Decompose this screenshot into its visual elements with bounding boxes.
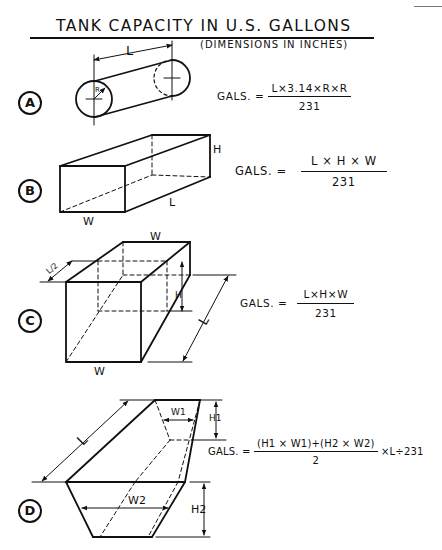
formula-lhs: GALS. = bbox=[208, 446, 251, 457]
tank-a-formula: GALS. = L×3.14×R×R 231 bbox=[217, 82, 351, 112]
tank-d-w1-label: W1 bbox=[171, 407, 186, 417]
tank-a-badge: A bbox=[18, 91, 42, 115]
tank-b-formula: GALS. = L × H × W 231 bbox=[235, 154, 387, 189]
formula-denominator: 231 bbox=[299, 97, 321, 112]
tank-c-badge: C bbox=[18, 309, 42, 333]
formula-numerator: (H1 × W1)+(H2 × W2) bbox=[254, 438, 378, 452]
tank-d-h1-label: H1 bbox=[209, 413, 222, 423]
formula-lhs: GALS. = bbox=[217, 90, 265, 102]
tank-c-width-bottom-label: W bbox=[94, 365, 105, 378]
tank-b-width-label: W bbox=[83, 215, 94, 228]
formula-denominator: 231 bbox=[332, 172, 356, 189]
tank-d-w2-label: W2 bbox=[128, 494, 146, 507]
tank-b-height-label: H bbox=[213, 143, 221, 156]
formula-fraction: L × H × W 231 bbox=[301, 154, 387, 189]
tank-c-height-label: H bbox=[175, 290, 182, 300]
tank-d-formula: GALS. = (H1 × W1)+(H2 × W2) 2 ×L÷231 bbox=[208, 438, 424, 466]
tank-a-length-label: L bbox=[126, 43, 133, 58]
formula-lhs: GALS. = bbox=[240, 297, 288, 309]
tank-b-length-label: L bbox=[169, 196, 175, 209]
formula-numerator: L×H×W bbox=[297, 288, 354, 304]
formula-denominator: 2 bbox=[313, 452, 320, 466]
tank-a-radius-label: R bbox=[95, 86, 100, 94]
tank-c-formula: GALS. = L×H×W 231 bbox=[240, 288, 354, 319]
tank-b-badge: B bbox=[18, 179, 42, 203]
tank-c-box bbox=[40, 242, 236, 362]
formula-fraction: L×H×W 231 bbox=[297, 288, 354, 319]
formula-numerator: L × H × W bbox=[301, 154, 387, 172]
tank-b-box bbox=[60, 135, 210, 212]
formula-numerator: L×3.14×R×R bbox=[268, 82, 350, 97]
tank-d-trapezoid bbox=[32, 400, 226, 537]
tank-d-h2-label: H2 bbox=[191, 503, 206, 516]
formula-fraction: (H1 × W1)+(H2 × W2) 2 bbox=[254, 438, 378, 466]
formula-denominator: 231 bbox=[315, 304, 337, 319]
formula-fraction: L×3.14×R×R 231 bbox=[268, 82, 350, 112]
tank-d-badge: D bbox=[18, 499, 42, 523]
formula-lhs: GALS. = bbox=[235, 164, 287, 178]
tank-c-width-top-label: W bbox=[150, 230, 161, 243]
formula-suffix: ×L÷231 bbox=[381, 446, 424, 457]
